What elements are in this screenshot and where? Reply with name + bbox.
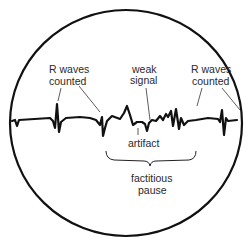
ecg-trace bbox=[12, 104, 237, 136]
leader-line-r-wave-3 bbox=[197, 88, 202, 106]
leader-line-r-wave-2 bbox=[79, 86, 100, 112]
leader-line-weak-signal bbox=[146, 88, 150, 120]
ecg-diagram: R waves counted weak signal R waves coun… bbox=[0, 0, 248, 240]
label-r-waves-counted-right: R waves bbox=[191, 63, 231, 75]
label-r-waves-counted-left: R waves bbox=[49, 63, 89, 75]
label-factitious-pause: factitious bbox=[131, 172, 172, 184]
circular-frame bbox=[10, 10, 242, 236]
label-factitious-pause-line2: pause bbox=[138, 184, 167, 196]
label-artifact: artifact bbox=[128, 137, 160, 149]
label-weak-signal-line2: signal bbox=[130, 74, 157, 86]
label-r-waves-counted-right-line2: counted bbox=[192, 75, 230, 87]
leader-line-r-wave-1 bbox=[58, 88, 61, 101]
factitious-pause-brace bbox=[106, 151, 196, 166]
label-r-waves-counted-left-line2: counted bbox=[49, 75, 87, 87]
